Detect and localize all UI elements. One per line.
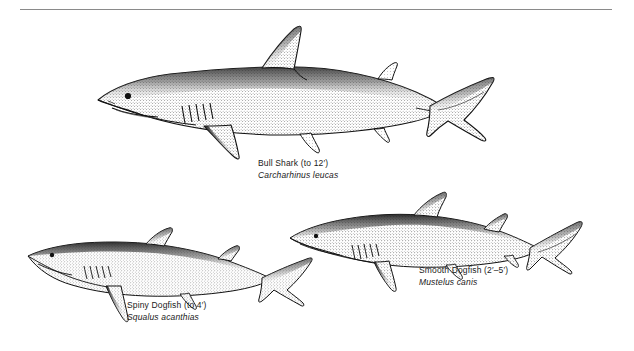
spiny-dogfish-eye bbox=[50, 253, 54, 257]
bull-shark-anal-fin bbox=[374, 128, 389, 142]
smooth-dogfish-scientific-name: Mustelus canis bbox=[419, 277, 508, 289]
bull-shark-scientific-name: Carcharhinus leucas bbox=[258, 170, 338, 182]
bull-shark-common-name: Bull Shark (to 12′) bbox=[258, 158, 338, 170]
bull-shark-second-dorsal-fin bbox=[378, 63, 397, 80]
smooth-dogfish-eye bbox=[314, 234, 318, 238]
smooth-dogfish-caption: Smooth Dogfish (2′–5′) Mustelus canis bbox=[419, 265, 508, 288]
smooth-dogfish-common-name: Smooth Dogfish (2′–5′) bbox=[419, 265, 508, 277]
spiny-dogfish-scientific-name: Squalus acanthias bbox=[127, 312, 206, 324]
bull-shark-pelvic-fin bbox=[300, 133, 319, 153]
shark-identification-plate: Bull Shark (to 12′) Carcharhinus leucas bbox=[0, 0, 634, 351]
bull-shark-eye bbox=[125, 93, 131, 99]
bull-shark-caption: Bull Shark (to 12′) Carcharhinus leucas bbox=[258, 158, 338, 181]
bull-shark-body bbox=[98, 26, 494, 159]
horizontal-rule bbox=[20, 9, 612, 10]
spiny-dogfish-common-name: Spiny Dogfish (to 4′) bbox=[127, 300, 206, 312]
spiny-dogfish-caption: Spiny Dogfish (to 4′) Squalus acanthias bbox=[127, 300, 206, 323]
bull-shark-illustration bbox=[86, 22, 506, 162]
